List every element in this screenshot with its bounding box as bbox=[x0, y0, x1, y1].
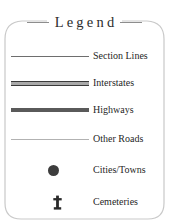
line-swatch-highways bbox=[11, 108, 89, 112]
title-rule-left bbox=[27, 22, 49, 23]
legend-entry-cities-towns: Cities/Towns bbox=[0, 159, 169, 181]
legend-entry-other-roads: Other Roads bbox=[0, 128, 169, 150]
symbol-section-lines bbox=[11, 45, 91, 67]
legend-label-cemeteries: Cemeteries bbox=[93, 197, 138, 207]
legend-label-other-roads: Other Roads bbox=[93, 134, 143, 144]
legend-entry-interstates: Interstates bbox=[0, 72, 169, 94]
legend-entry-cemeteries: Cemeteries bbox=[0, 191, 169, 213]
legend-title: Legend bbox=[49, 15, 121, 30]
legend-label-cities-towns: Cities/Towns bbox=[93, 165, 146, 175]
symbol-other-roads bbox=[11, 128, 91, 150]
title-rule-right bbox=[120, 22, 142, 23]
symbol-interstates bbox=[11, 72, 91, 94]
symbol-cemeteries bbox=[11, 191, 91, 213]
map-legend-panel: Legend Section Lines Interstates Highway… bbox=[0, 0, 169, 224]
legend-entry-highways: Highways bbox=[0, 99, 169, 121]
line-swatch-section-lines bbox=[11, 56, 89, 57]
cross-icon bbox=[51, 195, 64, 210]
line-swatch-other-roads bbox=[11, 139, 89, 140]
symbol-highways bbox=[11, 99, 91, 121]
legend-entry-section-lines: Section Lines bbox=[0, 45, 169, 67]
symbol-cities-towns bbox=[11, 159, 91, 181]
line-swatch-interstates bbox=[11, 81, 89, 86]
legend-label-section-lines: Section Lines bbox=[93, 51, 148, 61]
circle-icon bbox=[48, 165, 59, 176]
legend-label-highways: Highways bbox=[93, 105, 134, 115]
legend-title-row: Legend bbox=[0, 13, 169, 31]
legend-label-interstates: Interstates bbox=[93, 78, 134, 88]
